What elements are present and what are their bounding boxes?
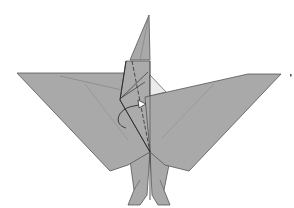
tick-mark — [290, 74, 292, 77]
head-spike — [130, 15, 150, 60]
right-wing — [145, 74, 281, 171]
origami-diagram — [0, 0, 294, 208]
